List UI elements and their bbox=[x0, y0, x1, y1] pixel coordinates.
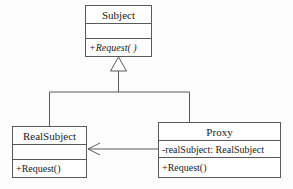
class-name-proxy: Proxy bbox=[159, 123, 280, 141]
class-operations-proxy: +Request() bbox=[159, 158, 280, 177]
hollow-triangle-icon bbox=[111, 57, 127, 71]
class-attributes-subject bbox=[86, 24, 151, 39]
class-name-realsubject: RealSubject bbox=[13, 127, 86, 145]
generalization-edges bbox=[50, 71, 190, 126]
class-name-subject: Subject bbox=[86, 6, 151, 24]
uml-class-proxy[interactable]: Proxy -realSubject: RealSubject +Request… bbox=[158, 122, 281, 178]
class-attributes-proxy: -realSubject: RealSubject bbox=[159, 141, 280, 158]
open-arrowhead-icon-lower bbox=[88, 149, 100, 155]
uml-class-diagram: Subject +Request( ) RealSubject +Request… bbox=[0, 0, 293, 189]
class-operations-subject: +Request( ) bbox=[86, 39, 151, 56]
uml-class-subject[interactable]: Subject +Request( ) bbox=[85, 5, 152, 57]
class-attributes-realsubject bbox=[13, 145, 86, 160]
uml-class-realsubject[interactable]: RealSubject +Request() bbox=[12, 126, 87, 178]
class-operations-realsubject: +Request() bbox=[13, 160, 86, 177]
open-arrowhead-icon-upper bbox=[88, 143, 100, 149]
association-edge bbox=[88, 143, 158, 155]
